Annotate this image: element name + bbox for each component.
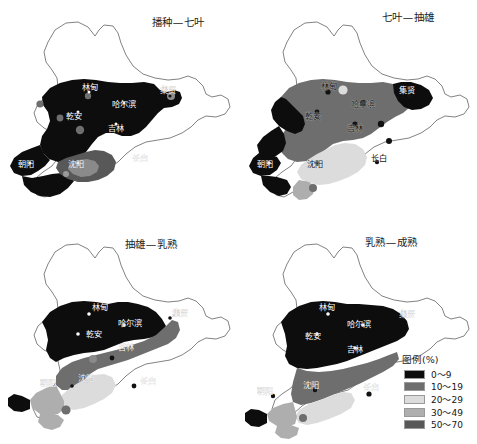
map-label-shenyang: 沈阳 (303, 380, 319, 390)
panel-title-tasseling-milk: 抽雄—乳熟 (125, 236, 178, 251)
map-panel-sowing-seven-leaf[interactable]: 林甸 集贤 哈尔滨 乾安 吉林 沈阳 朝阳 长白 播种—七叶 (0, 0, 238, 222)
map-panel-seven-leaf-tasseling[interactable]: 林甸 集贤 哈尔滨 乾安 吉林 沈阳 朝阳 长白 七叶—抽雄 (239, 0, 477, 222)
map-label-jixian: 集贤 (399, 309, 415, 319)
map-svg-panel-1: 林甸 集贤 哈尔滨 乾安 吉林 沈阳 朝阳 长白 (0, 0, 238, 222)
panel-title-seven-leaf-tasseling: 七叶—抽雄 (382, 9, 435, 24)
panel-title-milk-maturity: 乳熟—成熟 (365, 234, 418, 249)
legend-swatch-10-19 (404, 382, 425, 391)
map-label-changbai: 长白 (363, 382, 379, 392)
map-label-shenyang: 沈阳 (307, 159, 323, 169)
map-svg-panel-2: 林甸 集贤 哈尔滨 乾安 吉林 沈阳 朝阳 长白 (239, 0, 477, 222)
map-label-chaoyang: 朝阳 (18, 159, 34, 169)
map-label-jixian: 集贤 (399, 85, 415, 95)
panel-title-sowing-seven-leaf: 播种—七叶 (152, 14, 205, 29)
map-label-jixian: 集贤 (172, 308, 188, 318)
map-label-qianan: 乾安 (305, 331, 321, 341)
map-label-harbin: 哈尔滨 (118, 318, 142, 328)
map-label-lindian: 林甸 (92, 302, 108, 312)
map-label-jilin: 吉林 (347, 123, 363, 133)
map-label-harbin: 哈尔滨 (347, 319, 371, 329)
map-svg-panel-3: 林甸 集贤 哈尔滨 乾安 吉林 沈阳 朝阳 长白 (0, 222, 238, 444)
map-label-changbai: 长白 (371, 153, 387, 163)
legend-swatch-30-49 (404, 408, 425, 417)
map-label-chaoyang: 朝阳 (257, 159, 273, 169)
legend-title: 图例(%) (402, 352, 477, 366)
map-label-qianan: 乾安 (305, 111, 321, 121)
map-label-lindian: 林甸 (321, 81, 337, 91)
map-label-jilin: 吉林 (347, 344, 363, 354)
map-label-shenyang: 沈阳 (78, 373, 94, 383)
legend-item-10-19[interactable]: 10～19 (391, 381, 477, 394)
legend-swatch-0-9 (404, 370, 425, 379)
legend-label-10-19: 10～19 (431, 380, 463, 393)
choropleth-areas-panel-2 (249, 79, 433, 200)
map-label-jixian: 集贤 (160, 85, 176, 95)
map-label-chaoyang: 朝阳 (40, 378, 56, 388)
map-label-harbin: 哈尔滨 (112, 99, 136, 109)
legend-item-50-70[interactable]: 50～70 (391, 418, 477, 431)
map-label-lindian: 林甸 (82, 82, 98, 92)
map-label-lindian: 林甸 (319, 302, 335, 312)
map-label-changbai: 长白 (140, 376, 156, 386)
map-label-changbai: 长白 (132, 153, 148, 163)
legend-label-0-9: 0～9 (431, 368, 451, 381)
map-label-harbin: 哈尔滨 (351, 99, 375, 109)
map-label-qianan: 乾安 (86, 329, 102, 339)
legend-label-20-29: 20～29 (431, 393, 463, 406)
legend: 图例(%) 0～9 10～19 20～29 30～49 50～70 (391, 352, 477, 440)
choropleth-areas-panel-1 (10, 79, 182, 197)
legend-item-30-49[interactable]: 30～49 (391, 406, 477, 419)
map-panel-tasseling-milk[interactable]: 林甸 集贤 哈尔滨 乾安 吉林 沈阳 朝阳 长白 抽雄—乳熟 (0, 222, 238, 444)
map-label-chaoyang: 朝阳 (257, 386, 273, 396)
map-label-shenyang: 沈阳 (68, 159, 84, 169)
legend-label-30-49: 30～49 (431, 406, 463, 419)
map-label-jilin: 吉林 (118, 342, 134, 352)
legend-item-20-29[interactable]: 20～29 (391, 393, 477, 406)
map-label-jilin: 吉林 (108, 123, 124, 133)
legend-swatch-20-29 (404, 395, 425, 404)
legend-item-0-9[interactable]: 0～9 (391, 368, 477, 381)
legend-label-50-70: 50～70 (431, 418, 463, 431)
figure-root: 林甸 集贤 哈尔滨 乾安 吉林 沈阳 朝阳 长白 播种—七叶 (0, 0, 477, 444)
choropleth-areas-panel-4 (245, 301, 409, 439)
map-label-qianan: 乾安 (66, 111, 82, 121)
legend-swatch-50-70 (404, 420, 425, 429)
